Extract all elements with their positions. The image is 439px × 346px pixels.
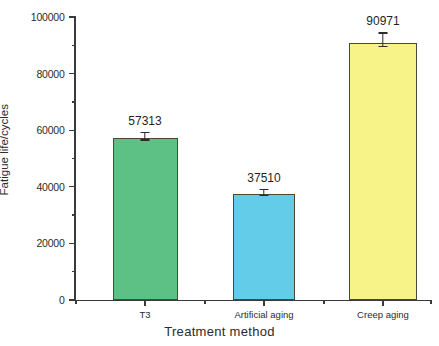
bar-value-label: 90971 — [366, 14, 399, 28]
bar-value-label: 57313 — [128, 114, 161, 128]
bars-layer — [0, 0, 439, 300]
x-tick-major — [144, 300, 145, 306]
bar-chart-figure: Fatigue life/cycles 02000040000600008000… — [0, 0, 439, 346]
bar-t3 — [113, 138, 178, 300]
error-bar-cap-bottom — [260, 195, 269, 196]
x-tick-major — [382, 300, 383, 306]
x-axis-title: Treatment method — [0, 324, 439, 339]
error-bar-cap-bottom — [141, 139, 150, 140]
error-bar-cap-top — [379, 32, 388, 33]
x-tick-minor — [204, 300, 205, 304]
error-bar-cap-bottom — [379, 46, 388, 47]
error-bar — [258, 189, 270, 196]
bar-creep-aging — [349, 43, 417, 300]
x-tick-label: Artificial aging — [234, 309, 293, 320]
error-bar — [377, 32, 389, 47]
bar-artificial-aging — [233, 194, 295, 300]
bar-value-label: 37510 — [247, 171, 280, 185]
x-tick-major — [263, 300, 264, 306]
x-tick-label: Creep aging — [357, 309, 409, 320]
x-tick-minor — [323, 300, 324, 304]
error-bar — [139, 132, 151, 141]
x-tick-minor — [430, 300, 431, 304]
x-tick-label: T3 — [139, 309, 150, 320]
x-tick-minor — [75, 300, 76, 304]
error-bar-cap-top — [141, 132, 150, 133]
error-bar-cap-top — [260, 189, 269, 190]
